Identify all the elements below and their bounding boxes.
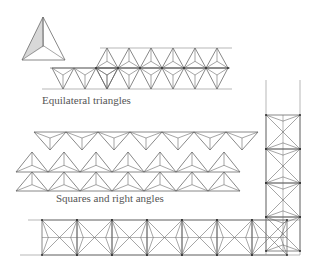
square-tile-band: [20, 219, 300, 256]
single-equilateral-triangle: [22, 17, 65, 60]
caption-equilateral-triangles: Equilateral triangles: [42, 94, 131, 106]
vertical-square-column: [265, 80, 301, 255]
equilateral-triangle-band: [42, 48, 232, 89]
right-angle-triangle-band: [16, 132, 258, 191]
caption-squares-right-angles: Squares and right angles: [56, 192, 164, 204]
tiling-diagram: [0, 0, 316, 269]
